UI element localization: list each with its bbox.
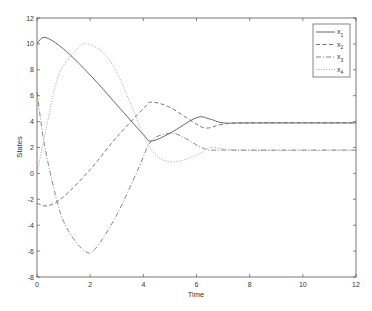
- series-line-x1: [37, 37, 356, 141]
- y-tick-label: 6: [30, 92, 34, 99]
- x-tick-label: 12: [352, 281, 360, 288]
- y-tick-label: -4: [28, 222, 34, 229]
- y-axis-label: States: [15, 136, 24, 158]
- x-tick-label: 2: [88, 281, 92, 288]
- x-tick-label: 8: [248, 281, 252, 288]
- y-tick-label: -2: [28, 196, 34, 203]
- plot-frame: [37, 18, 356, 277]
- y-tick-label: -6: [28, 248, 34, 255]
- x-axis-label: Time: [188, 290, 204, 299]
- x-tick-label: 6: [195, 281, 199, 288]
- y-tick-label: 8: [30, 66, 34, 73]
- y-tick-label: 4: [30, 118, 34, 125]
- x-tick-label: 10: [299, 281, 307, 288]
- y-tick-label: 0: [30, 170, 34, 177]
- y-tick-label: 12: [26, 15, 34, 22]
- y-tick-label: -8: [28, 274, 34, 281]
- plot-lines: [37, 37, 356, 253]
- chart-figure: 024681012-8-6-4-2024681012 Time States x…: [0, 0, 372, 311]
- plot-axes: [37, 18, 356, 277]
- series-line-x3: [37, 92, 356, 253]
- x-tick-label: 0: [35, 281, 39, 288]
- y-tick-label: 2: [30, 144, 34, 151]
- legend: x1x2x3x4: [313, 24, 350, 77]
- series-line-x4: [37, 44, 356, 174]
- x-tick-label: 4: [141, 281, 145, 288]
- y-tick-label: 10: [26, 40, 34, 47]
- axis-ticks: 024681012-8-6-4-2024681012: [26, 15, 360, 289]
